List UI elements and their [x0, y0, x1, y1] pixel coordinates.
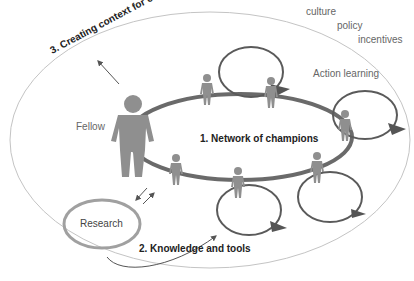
arrow-to-research: [136, 188, 147, 200]
knowledge-label: 2. Knowledge and tools: [139, 243, 251, 254]
action-learning-label: Action learning: [313, 68, 379, 79]
action-learning-loop-bottom-left: [217, 185, 287, 235]
fellow-figure: [111, 95, 154, 177]
diagram-canvas: 3. Creating context for change culture p…: [0, 0, 414, 281]
network-label: 1. Network of champions: [200, 133, 318, 144]
context-factor-policy: policy: [337, 20, 363, 31]
champion-figure: [310, 152, 324, 183]
fellow-label: Fellow: [76, 121, 105, 132]
champion-figure: [264, 77, 278, 108]
champion-figure: [231, 167, 245, 198]
champion-figure: [200, 74, 214, 105]
research-label: Research: [80, 218, 123, 229]
action-learning-loop-top: [219, 47, 290, 97]
champion-figure: [169, 154, 183, 185]
action-learning-loop-bottom-right: [298, 172, 366, 222]
context-factor-culture: culture: [306, 6, 336, 17]
arrow-to-fellow: [143, 193, 154, 204]
context-arrow: [98, 61, 119, 84]
context-factor-incentives: incentives: [358, 34, 402, 45]
